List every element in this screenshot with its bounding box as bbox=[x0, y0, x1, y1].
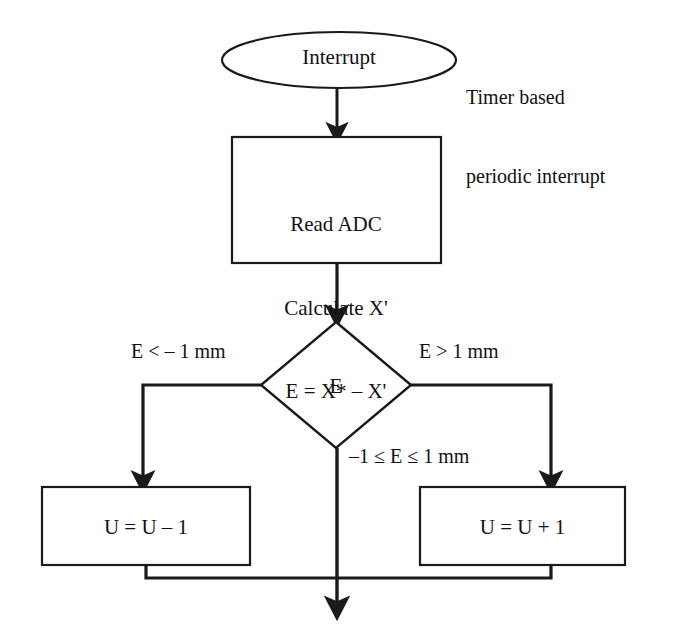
edge-right-action-to-merge bbox=[337, 565, 551, 578]
left-action-node-label: U = U – 1 bbox=[42, 514, 250, 542]
branch-label-left: E < – 1 mm bbox=[131, 338, 226, 364]
edge-left-action-to-merge bbox=[146, 565, 337, 578]
branch-label-center: –1 ≤ E ≤ 1 mm bbox=[349, 443, 469, 469]
flowchart-canvas: Interrupt Timer based periodic interrupt… bbox=[0, 0, 680, 640]
process-line-2: Calculate X' bbox=[232, 295, 440, 323]
start-node-label: Interrupt bbox=[222, 44, 456, 72]
side-note-line-1: Timer based bbox=[466, 84, 605, 110]
side-note-line-2: periodic interrupt bbox=[466, 163, 605, 189]
process-line-1: Read ADC bbox=[232, 211, 440, 239]
branch-label-right: E > 1 mm bbox=[419, 338, 499, 364]
side-note: Timer based periodic interrupt bbox=[466, 31, 605, 242]
right-action-node-label: U = U + 1 bbox=[420, 514, 625, 542]
process-node-label: Read ADC Calculate X' E = X* – X' bbox=[232, 156, 440, 461]
decision-node-label: E bbox=[296, 373, 376, 401]
